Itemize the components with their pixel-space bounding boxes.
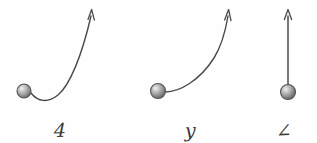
- panel-label-c: ∠: [250, 121, 317, 140]
- arrowhead-icon-a: [88, 10, 94, 21]
- trajectory-path-b: [165, 16, 228, 92]
- ball-b: [151, 84, 166, 99]
- trajectory-panel-c: ∠: [250, 0, 317, 143]
- panel-label-b: y: [130, 121, 250, 140]
- panel-label-b-text: y: [184, 121, 195, 141]
- trajectory-panel-b: y: [130, 0, 250, 143]
- trajectory-drawing-c: [250, 0, 317, 118]
- trajectory-drawing-a: [0, 0, 120, 118]
- drawing-sheet: 4 y: [0, 0, 317, 143]
- ball-c: [281, 85, 296, 100]
- trajectory-drawing-b: [130, 0, 250, 118]
- trajectory-panel-a: 4: [0, 0, 120, 143]
- panel-label-c-text: ∠: [275, 121, 291, 141]
- panel-label-a: 4: [0, 121, 120, 140]
- trajectory-path-a: [31, 16, 91, 100]
- ball-a: [17, 84, 31, 98]
- panel-label-a-text: 4: [54, 121, 66, 141]
